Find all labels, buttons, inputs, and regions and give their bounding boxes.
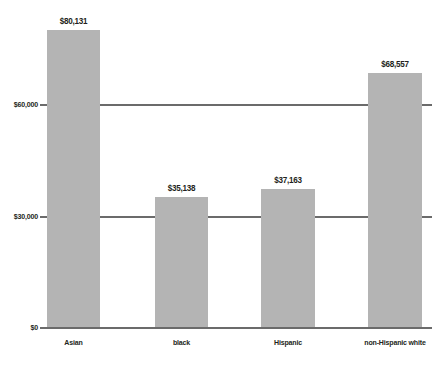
y-tick-60000 bbox=[40, 104, 47, 106]
bar-value-hispanic: $37,163 bbox=[264, 175, 313, 185]
y-tick-30000 bbox=[40, 216, 47, 218]
bar-black[interactable] bbox=[155, 197, 208, 327]
bar-non-hispanic-white[interactable] bbox=[368, 73, 422, 327]
y-axis-tick-label-0: $0 bbox=[5, 323, 38, 332]
bar-hispanic[interactable] bbox=[261, 189, 315, 327]
bar-value-non-hispanic-white: $68,557 bbox=[371, 59, 420, 69]
x-axis-label-non-hispanic-white: non-Hispanic white bbox=[362, 338, 427, 347]
bar-asian[interactable] bbox=[47, 30, 100, 327]
axis-baseline bbox=[47, 327, 432, 329]
bar-chart: $60,000 $30,000 $0 $80,131 $35,138 $37,1… bbox=[0, 0, 446, 365]
y-axis-tick-label-30000: $30,000 bbox=[5, 212, 38, 221]
bar-value-asian: $80,131 bbox=[50, 16, 98, 26]
plot-area: $80,131 $35,138 $37,163 $68,557 Asian bl… bbox=[47, 10, 432, 327]
y-axis-tick-label-60000: $60,000 bbox=[5, 100, 38, 109]
x-axis-label-black: black bbox=[149, 338, 213, 347]
x-axis-label-asian: Asian bbox=[41, 338, 105, 347]
x-axis-label-hispanic: Hispanic bbox=[255, 338, 320, 347]
y-tick-0 bbox=[40, 327, 47, 329]
bar-value-black: $35,138 bbox=[158, 183, 206, 193]
